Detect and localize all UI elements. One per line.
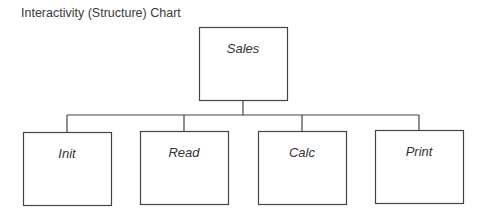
structure-chart: SalesInitReadCalcPrint — [0, 0, 488, 219]
node-box — [200, 28, 288, 101]
node-box — [259, 132, 347, 205]
node-label: Init — [58, 146, 77, 161]
node-box — [376, 131, 464, 204]
node-calc: Calc — [259, 132, 347, 205]
node-read: Read — [141, 132, 229, 205]
node-init: Init — [24, 133, 112, 206]
node-box — [141, 132, 229, 205]
node-label: Read — [168, 145, 200, 160]
node-label: Sales — [227, 41, 260, 56]
node-box — [24, 133, 112, 206]
node-label: Print — [406, 144, 434, 159]
node-print: Print — [376, 131, 464, 204]
nodes: SalesInitReadCalcPrint — [24, 28, 464, 206]
node-sales: Sales — [200, 28, 288, 101]
connectors — [67, 100, 419, 132]
node-label: Calc — [289, 145, 316, 160]
